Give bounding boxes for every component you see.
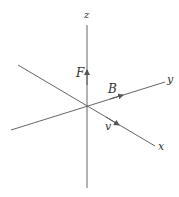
f-vector-label: F: [76, 67, 84, 79]
diagram-canvas: z y x F B v: [0, 0, 179, 197]
z-axis-label: z: [84, 10, 89, 20]
v-vector-label: v: [105, 121, 111, 132]
y-axis: [11, 82, 165, 130]
axes-diagram: [0, 0, 179, 197]
y-axis-label: y: [167, 74, 173, 85]
b-vector-label: B: [108, 83, 117, 95]
x-axis-label: x: [158, 141, 164, 152]
